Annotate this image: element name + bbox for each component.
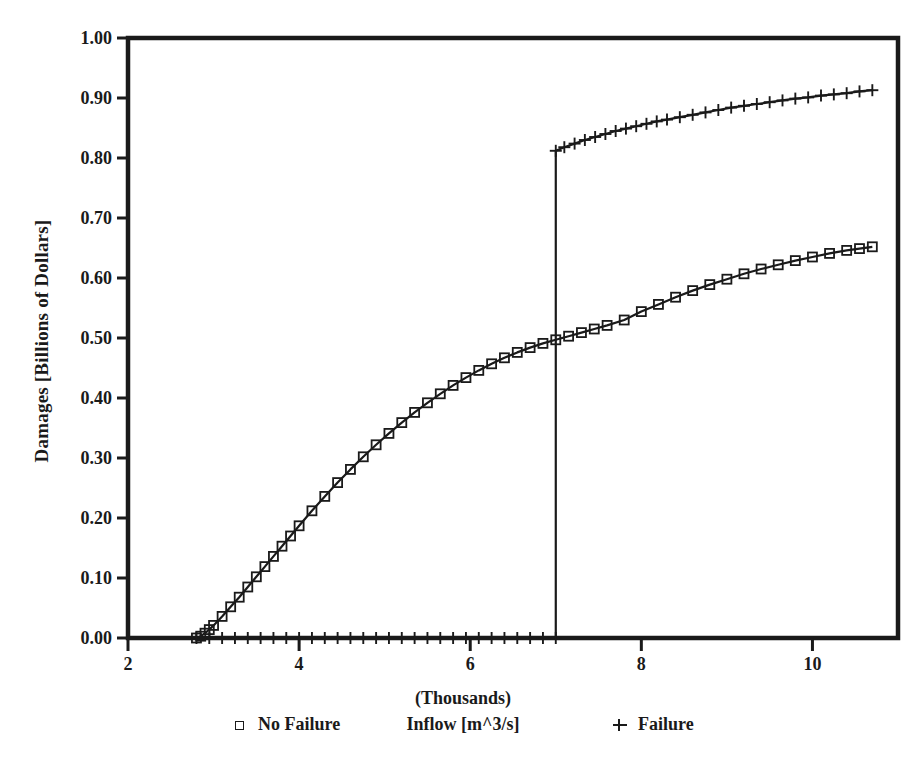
x-axis-title: Inflow [m^3/s] [363, 714, 563, 735]
x-tick-label: 4 [269, 655, 329, 673]
plot-frame [128, 38, 898, 638]
series-line-failure [196, 90, 872, 638]
x-axis-tick-labels: 246810 [0, 655, 924, 681]
legend-item-failure: Failure [612, 714, 694, 735]
x-tick-label: 6 [440, 655, 500, 673]
x-axis-units-note: (Thousands) [363, 688, 563, 709]
plot-area [0, 0, 924, 762]
damages-vs-inflow-chart: Damages [Billions of Dollars] 0.000.100.… [0, 0, 924, 762]
x-tick-label: 2 [98, 655, 158, 673]
x-tick-label: 8 [611, 655, 671, 673]
legend-label-failure: Failure [638, 714, 694, 735]
square-marker-icon [232, 717, 248, 733]
plus-marker-icon [612, 717, 628, 733]
legend-label-no-failure: No Failure [258, 714, 340, 735]
x-tick-label: 10 [782, 655, 842, 673]
legend-item-no-failure: No Failure [232, 714, 340, 735]
series-line-no-failure [196, 247, 872, 638]
